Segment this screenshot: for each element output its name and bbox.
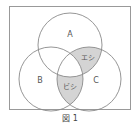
figure-caption: 図 1 bbox=[62, 114, 78, 123]
label-b: B bbox=[37, 76, 43, 85]
region-label-bc: ビシ bbox=[63, 82, 77, 91]
label-a: A bbox=[67, 30, 73, 39]
venn-diagram: A B C エシ ビシ 図 1 bbox=[0, 0, 137, 127]
region-label-ac: エシ bbox=[81, 54, 95, 62]
label-c: C bbox=[93, 76, 99, 85]
